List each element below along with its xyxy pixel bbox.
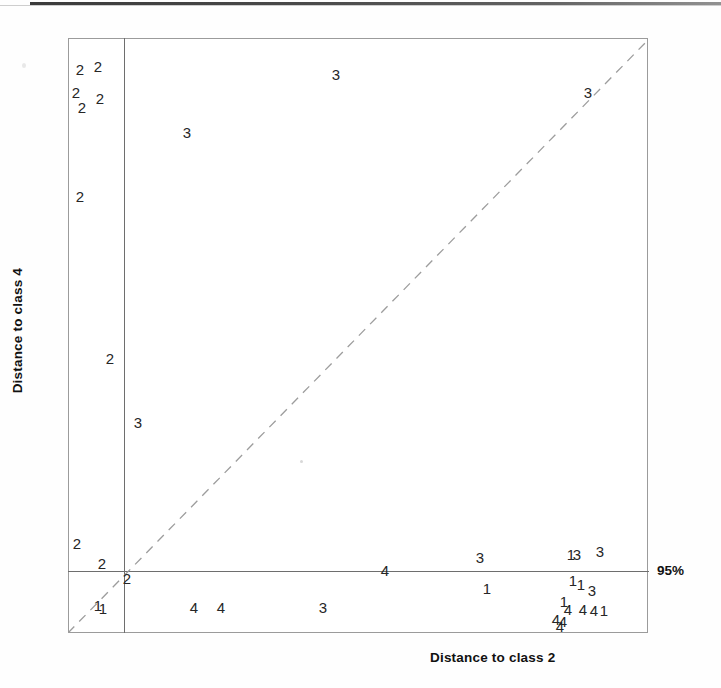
vertical-95-limit-line <box>124 38 125 633</box>
data-point-2: 2 <box>123 571 131 586</box>
x-axis-title: Distance to class 2 <box>430 650 555 665</box>
data-point-2: 2 <box>96 91 104 106</box>
data-point-3: 3 <box>134 415 142 430</box>
data-point-3: 3 <box>588 583 596 598</box>
limit-95-label: 95% <box>657 563 684 578</box>
data-point-1: 1 <box>99 601 107 616</box>
data-point-3: 3 <box>332 67 340 82</box>
data-point-2: 2 <box>76 62 84 77</box>
paper-speckle <box>300 460 303 463</box>
figure-page: 222222222233333333311111111444444444 Dis… <box>0 0 721 688</box>
data-point-1: 1 <box>577 577 585 592</box>
data-point-1: 1 <box>600 603 608 618</box>
data-point-3: 3 <box>476 550 484 565</box>
plot-frame <box>68 38 648 633</box>
data-point-2: 2 <box>72 85 80 100</box>
data-point-2: 2 <box>94 59 102 74</box>
data-point-1: 1 <box>567 547 575 562</box>
data-point-3: 3 <box>319 600 327 615</box>
data-point-2: 2 <box>98 556 106 571</box>
data-point-4: 4 <box>579 602 587 617</box>
data-point-4: 4 <box>556 619 564 634</box>
data-point-2: 2 <box>78 100 86 115</box>
data-point-2: 2 <box>76 189 84 204</box>
data-point-4: 4 <box>190 600 198 615</box>
scan-artifact-hairline <box>0 5 721 6</box>
data-point-3: 3 <box>596 544 604 559</box>
data-point-4: 4 <box>381 563 389 578</box>
paper-speckle <box>22 63 26 68</box>
horizontal-95-limit-line <box>68 571 649 572</box>
data-point-3: 3 <box>584 85 592 100</box>
data-point-3: 3 <box>183 125 191 140</box>
data-point-2: 2 <box>106 351 114 366</box>
data-point-4: 4 <box>217 600 225 615</box>
data-point-4: 4 <box>590 603 598 618</box>
data-point-1: 1 <box>483 581 491 596</box>
data-point-2: 2 <box>73 536 81 551</box>
y-axis-title: Distance to class 4 <box>10 268 25 393</box>
